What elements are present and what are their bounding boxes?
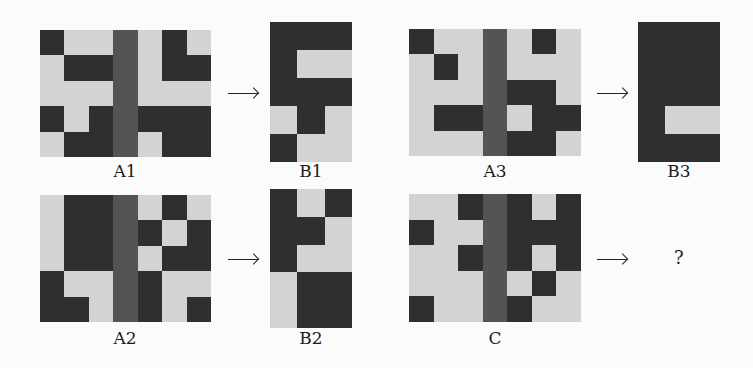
dark-cell xyxy=(556,220,581,246)
label-b2: B2 xyxy=(281,328,341,348)
dark-cell xyxy=(40,297,64,322)
light-cell xyxy=(325,134,352,162)
light-cell xyxy=(270,272,297,300)
light-cell xyxy=(693,106,720,134)
grid-b2 xyxy=(270,189,352,328)
light-cell xyxy=(270,106,297,134)
divider-cell xyxy=(483,220,508,246)
dark-cell xyxy=(693,50,720,78)
divider-cell xyxy=(113,81,137,106)
light-cell xyxy=(162,297,186,322)
divider-cell xyxy=(483,105,508,130)
light-cell xyxy=(138,81,162,106)
light-cell xyxy=(297,189,324,217)
dark-cell xyxy=(325,272,352,300)
light-cell xyxy=(187,271,211,296)
light-cell xyxy=(409,194,434,220)
light-cell xyxy=(325,245,352,273)
light-cell xyxy=(138,246,162,271)
light-cell xyxy=(434,245,459,271)
dark-cell xyxy=(297,22,324,50)
divider-cell xyxy=(113,195,137,220)
label-b1: B1 xyxy=(281,161,341,181)
dark-cell xyxy=(507,220,532,246)
dark-cell xyxy=(40,271,64,296)
light-cell xyxy=(162,81,186,106)
light-cell xyxy=(40,220,64,245)
light-cell xyxy=(458,54,483,79)
light-cell xyxy=(64,30,88,55)
light-cell xyxy=(325,106,352,134)
dark-cell xyxy=(409,220,434,246)
dark-cell xyxy=(270,217,297,245)
unknown-output-placeholder: ? xyxy=(674,247,684,268)
light-cell xyxy=(556,296,581,322)
dark-cell xyxy=(665,50,692,78)
light-cell xyxy=(270,300,297,328)
light-cell xyxy=(532,54,557,79)
light-cell xyxy=(556,29,581,54)
dark-cell xyxy=(138,297,162,322)
divider-cell xyxy=(113,132,137,157)
dark-cell xyxy=(89,132,113,157)
light-cell xyxy=(138,55,162,80)
divider-cell xyxy=(113,106,137,131)
dark-cell xyxy=(187,220,211,245)
dark-cell xyxy=(325,300,352,328)
dark-cell xyxy=(270,22,297,50)
light-cell xyxy=(89,271,113,296)
dark-cell xyxy=(270,189,297,217)
dark-cell xyxy=(434,54,459,79)
light-cell xyxy=(89,297,113,322)
arrow-icon xyxy=(597,259,627,260)
light-cell xyxy=(187,81,211,106)
dark-cell xyxy=(665,22,692,50)
light-cell xyxy=(297,245,324,273)
dark-cell xyxy=(187,297,211,322)
light-cell xyxy=(507,29,532,54)
light-cell xyxy=(665,106,692,134)
dark-cell xyxy=(89,246,113,271)
light-cell xyxy=(40,195,64,220)
light-cell xyxy=(89,30,113,55)
dark-cell xyxy=(162,106,186,131)
light-cell xyxy=(409,80,434,105)
light-cell xyxy=(556,271,581,297)
light-cell xyxy=(187,195,211,220)
light-cell xyxy=(507,271,532,297)
light-cell xyxy=(138,132,162,157)
dark-cell xyxy=(638,106,665,134)
dark-cell xyxy=(556,194,581,220)
divider-cell xyxy=(483,194,508,220)
divider-cell xyxy=(483,54,508,79)
dark-cell xyxy=(138,220,162,245)
light-cell xyxy=(409,105,434,130)
dark-cell xyxy=(64,297,88,322)
divider-cell xyxy=(483,271,508,297)
dark-cell xyxy=(270,134,297,162)
dark-cell xyxy=(458,194,483,220)
dark-cell xyxy=(89,195,113,220)
dark-cell xyxy=(40,106,64,131)
light-cell xyxy=(297,134,324,162)
light-cell xyxy=(434,194,459,220)
dark-cell xyxy=(138,271,162,296)
dark-cell xyxy=(693,78,720,106)
dark-cell xyxy=(556,245,581,271)
light-cell xyxy=(325,50,352,78)
label-a1: A1 xyxy=(95,161,155,181)
dark-cell xyxy=(665,134,692,162)
dark-cell xyxy=(297,78,324,106)
light-cell xyxy=(40,132,64,157)
light-cell xyxy=(187,30,211,55)
light-cell xyxy=(64,106,88,131)
light-cell xyxy=(434,296,459,322)
divider-cell xyxy=(483,245,508,271)
light-cell xyxy=(64,81,88,106)
divider-cell xyxy=(113,297,137,322)
dark-cell xyxy=(507,131,532,156)
light-cell xyxy=(507,105,532,130)
light-cell xyxy=(89,81,113,106)
divider-cell xyxy=(483,80,508,105)
light-cell xyxy=(434,220,459,246)
